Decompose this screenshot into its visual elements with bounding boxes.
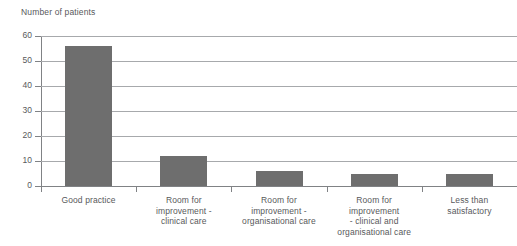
gridline-30: [41, 111, 517, 112]
bar-2: [160, 156, 207, 186]
category-label-2-line-1: Room for: [136, 195, 231, 206]
gridline-50: [41, 61, 517, 62]
bar-5: [446, 174, 493, 187]
x-tick-4: [422, 187, 423, 192]
x-tick-1: [136, 187, 137, 192]
y-tick-label-slot-20: 20: [0, 131, 32, 141]
plot-area: [41, 36, 517, 186]
y-tick-label-50: 50: [6, 56, 32, 65]
y-tick-label-slot-0: 0: [0, 181, 32, 191]
y-tick-label-slot-30: 30: [0, 106, 32, 116]
category-label-2-line-3: clinical care: [136, 216, 231, 227]
x-axis-line: [41, 186, 517, 187]
y-tick-label-0: 0: [6, 181, 32, 190]
gridline-60: [41, 36, 517, 37]
category-label-4: Room forimprovement- clinical andorganis…: [327, 195, 422, 237]
category-label-4-line-1: Room for: [327, 195, 422, 206]
gridline-10: [41, 161, 517, 162]
category-label-5-line-1: Less than: [422, 195, 517, 206]
category-label-4-line-4: organisational care: [327, 227, 422, 238]
category-label-3: Room forimprovement -organisational care: [231, 195, 326, 227]
category-label-2-line-2: improvement -: [136, 206, 231, 217]
category-label-5-line-2: satisfactory: [422, 206, 517, 217]
y-axis-title: Number of patients: [21, 7, 96, 17]
gridline-40: [41, 86, 517, 87]
bar-4: [351, 174, 398, 187]
bar-1: [65, 46, 112, 186]
y-tick-label-30: 30: [6, 106, 32, 115]
category-label-3-line-2: improvement -: [231, 206, 326, 217]
x-tick-start: [41, 187, 42, 192]
category-label-2: Room forimprovement -clinical care: [136, 195, 231, 227]
category-label-1: Good practice: [41, 195, 136, 206]
bar-3: [256, 171, 303, 186]
category-label-4-line-2: improvement: [327, 206, 422, 217]
y-tick-label-40: 40: [6, 81, 32, 90]
category-label-3-line-1: Room for: [231, 195, 326, 206]
y-tick-label-20: 20: [6, 131, 32, 140]
category-label-1-line-1: Good practice: [41, 195, 136, 206]
y-tick-label-60: 60: [6, 31, 32, 40]
gridline-20: [41, 136, 517, 137]
y-tick-label-10: 10: [6, 156, 32, 165]
y-tick-label-slot-50: 50: [0, 56, 32, 66]
x-tick-3: [327, 187, 328, 192]
x-tick-2: [231, 187, 232, 192]
y-tick-label-slot-60: 60: [0, 31, 32, 41]
y-tick-label-slot-40: 40: [0, 81, 32, 91]
category-label-4-line-3: - clinical and: [327, 216, 422, 227]
category-label-5: Less thansatisfactory: [422, 195, 517, 216]
chart-screenshot: Number of patients 0102030405060 Good pr…: [0, 0, 517, 246]
y-tick-label-slot-10: 10: [0, 156, 32, 166]
category-label-3-line-3: organisational care: [231, 216, 326, 227]
